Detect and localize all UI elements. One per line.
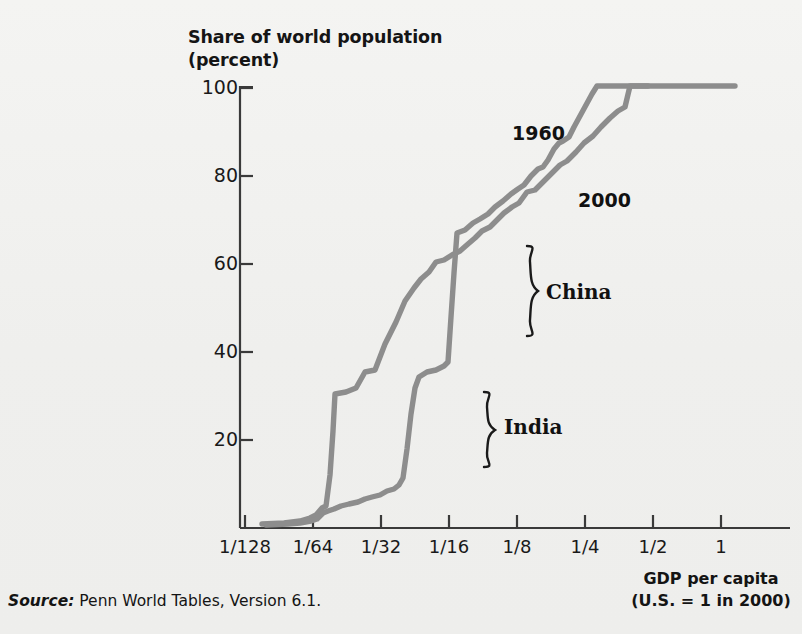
brace-china [527,246,538,336]
curve-1960 [262,86,648,524]
axis-lines [240,87,790,528]
source-prefix: Source: [8,592,74,610]
plot-area [0,0,802,634]
x-axis-caption: GDP per capita (U.S. = 1 in 2000) [620,568,802,611]
figure-container: Share of world population (percent) 100 … [0,0,802,634]
source-note: Source: Penn World Tables, Version 6.1. [8,592,321,610]
source-text: Penn World Tables, Version 6.1. [74,592,321,610]
brace-india [484,392,495,467]
curve-2000 [266,86,735,525]
y-axis-ticks [240,88,253,440]
